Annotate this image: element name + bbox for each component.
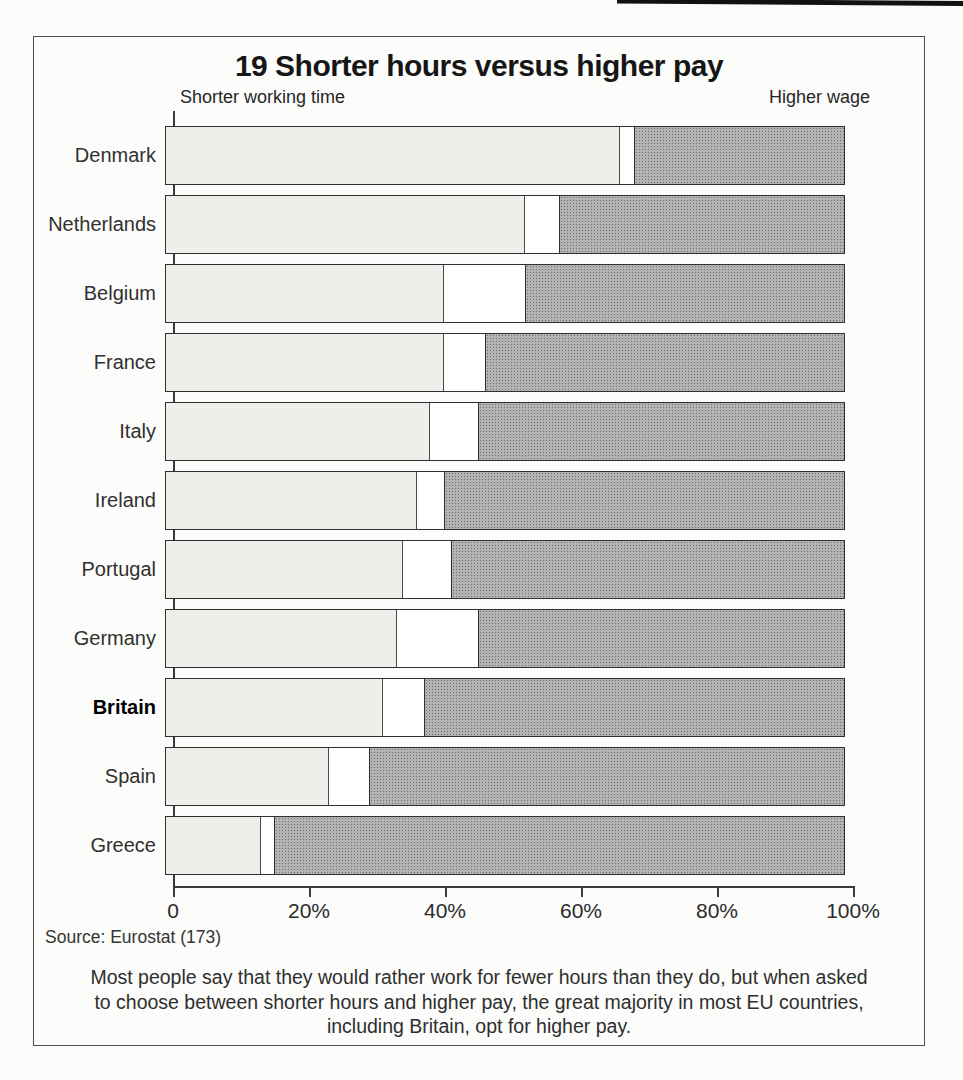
caption-line-2: to choose between shorter hours and high… xyxy=(34,990,924,1015)
country-label: Spain xyxy=(34,765,165,788)
chart-row: Greece xyxy=(34,811,924,880)
higher-wage-segment xyxy=(444,472,844,529)
higher-wage-segment xyxy=(485,334,844,391)
stacked-bar xyxy=(165,678,845,737)
x-axis-line xyxy=(173,886,854,888)
country-label: Italy xyxy=(34,420,165,443)
shorter-hours-segment xyxy=(166,748,329,805)
chart-row: Netherlands xyxy=(34,190,924,259)
left-pole-label: Shorter working time xyxy=(180,87,345,108)
x-axis-tick xyxy=(853,886,855,897)
x-axis-tick-label: 40% xyxy=(424,899,466,923)
stacked-bar xyxy=(165,609,845,668)
axis-pole-labels: Shorter working time Higher wage xyxy=(180,87,870,108)
country-label: Ireland xyxy=(34,489,165,512)
higher-wage-segment xyxy=(634,127,844,184)
bar-plot: Denmark Netherlands Belgium France Italy… xyxy=(34,121,924,880)
x-axis-tick-label: 80% xyxy=(696,899,738,923)
higher-wage-segment xyxy=(369,748,844,805)
shorter-hours-segment xyxy=(166,472,417,529)
country-label: Portugal xyxy=(34,558,165,581)
x-axis-tick-label: 20% xyxy=(288,899,330,923)
higher-wage-segment xyxy=(451,541,844,598)
shorter-hours-segment xyxy=(166,334,444,391)
shorter-hours-segment xyxy=(166,265,444,322)
country-label: Greece xyxy=(34,834,165,857)
country-label: Britain xyxy=(34,696,165,719)
x-axis-tick-label: 60% xyxy=(560,899,602,923)
stacked-bar xyxy=(165,471,845,530)
stacked-bar xyxy=(165,333,845,392)
book-page-scan: 19 Shorter hours versus higher pay Short… xyxy=(0,0,963,1080)
chart-row: Portugal xyxy=(34,535,924,604)
stacked-bar xyxy=(165,264,845,323)
chart-row: Belgium xyxy=(34,259,924,328)
x-axis-tick-label: 0 xyxy=(167,899,179,923)
shorter-hours-segment xyxy=(166,196,525,253)
chart-row: Britain xyxy=(34,673,924,742)
country-label: Netherlands xyxy=(34,213,165,236)
country-label: Germany xyxy=(34,627,165,650)
country-label: Denmark xyxy=(34,144,165,167)
shorter-hours-segment xyxy=(166,679,383,736)
shorter-hours-segment xyxy=(166,541,403,598)
figure-box: 19 Shorter hours versus higher pay Short… xyxy=(33,36,925,1046)
caption-line-1: Most people say that they would rather w… xyxy=(34,965,924,990)
source-note: Source: Eurostat (173) xyxy=(45,927,221,948)
figure-caption: Most people say that they would rather w… xyxy=(34,965,924,1039)
shorter-hours-segment xyxy=(166,403,430,460)
x-axis-tick xyxy=(173,886,175,897)
stacked-bar xyxy=(165,747,845,806)
chart-row: Spain xyxy=(34,742,924,811)
higher-wage-segment xyxy=(478,610,844,667)
higher-wage-segment xyxy=(424,679,844,736)
shorter-hours-segment xyxy=(166,127,620,184)
x-axis-tick xyxy=(717,886,719,897)
x-axis-tick xyxy=(581,886,583,897)
x-axis-tick xyxy=(309,886,311,897)
higher-wage-segment xyxy=(525,265,844,322)
stacked-bar xyxy=(165,540,845,599)
country-label: France xyxy=(34,351,165,374)
chart-row: France xyxy=(34,328,924,397)
chart-row: Denmark xyxy=(34,121,924,190)
page-header-rule xyxy=(617,0,963,6)
figure-title: 19 Shorter hours versus higher pay xyxy=(34,49,924,83)
higher-wage-segment xyxy=(559,196,844,253)
stacked-bar xyxy=(165,195,845,254)
caption-line-3: including Britain, opt for higher pay. xyxy=(34,1014,924,1039)
x-axis-tick xyxy=(445,886,447,897)
higher-wage-segment xyxy=(478,403,844,460)
higher-wage-segment xyxy=(274,817,844,874)
stacked-bar xyxy=(165,126,845,185)
right-pole-label: Higher wage xyxy=(769,87,870,108)
shorter-hours-segment xyxy=(166,817,261,874)
chart-row: Germany xyxy=(34,604,924,673)
stacked-bar xyxy=(165,816,845,875)
stacked-bar xyxy=(165,402,845,461)
shorter-hours-segment xyxy=(166,610,397,667)
chart-row: Ireland xyxy=(34,466,924,535)
chart-row: Italy xyxy=(34,397,924,466)
country-label: Belgium xyxy=(34,282,165,305)
x-axis-tick-label: 100% xyxy=(826,899,880,923)
